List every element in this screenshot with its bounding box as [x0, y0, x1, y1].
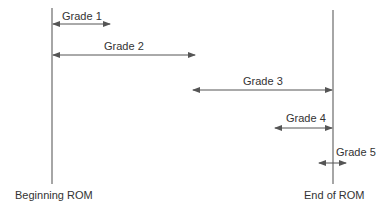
rom-grade-diagram	[0, 0, 390, 213]
grade-5-label: Grade 5	[336, 147, 376, 158]
end-rom-label: End of ROM	[304, 190, 365, 201]
grade-3-label: Grade 3	[243, 76, 283, 87]
grade-2-label: Grade 2	[104, 41, 144, 52]
grade-1-label: Grade 1	[62, 11, 102, 22]
grade-4-label: Grade 4	[286, 113, 326, 124]
beginning-rom-label: Beginning ROM	[15, 190, 93, 201]
